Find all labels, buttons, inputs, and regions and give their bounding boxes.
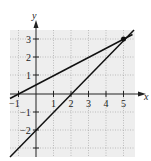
x-tick-label: 5 bbox=[121, 98, 126, 109]
intersection-point bbox=[121, 37, 126, 42]
x-tick-label: 1 bbox=[51, 98, 56, 109]
y-tick-label: 1 bbox=[26, 70, 31, 81]
y-axis-arrow-icon bbox=[34, 20, 39, 28]
x-tick-label: −1 bbox=[9, 98, 20, 109]
x-axis-label: x bbox=[143, 91, 149, 102]
x-tick-label: 2 bbox=[69, 98, 74, 109]
x-tick-label: 4 bbox=[104, 98, 109, 109]
y-axis-label: y bbox=[31, 10, 37, 21]
y-tick-label: −2 bbox=[20, 125, 31, 136]
x-tick-label: 3 bbox=[86, 98, 91, 109]
y-tick-label: 3 bbox=[26, 34, 31, 45]
coordinate-plane: y x −1 1 2 3 4 5 3 2 1 −1 −2 bbox=[0, 0, 151, 161]
y-tick-label: 2 bbox=[26, 52, 31, 63]
y-tick-label: −1 bbox=[20, 107, 31, 118]
